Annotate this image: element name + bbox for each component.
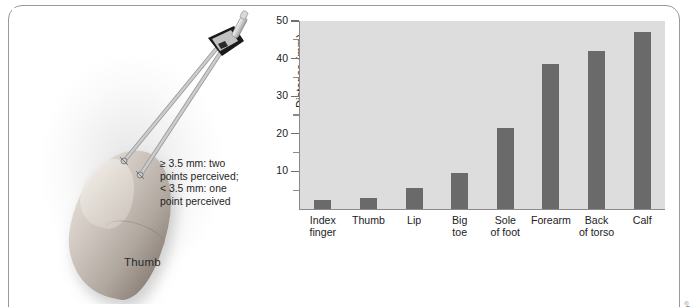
y-axis-line [299, 21, 300, 210]
bar [451, 173, 468, 209]
y-tick-major [291, 171, 299, 172]
y-tick-label: 40 [268, 52, 288, 64]
annotation-text: ≥ 3.5 mm: two points perceived; < 3.5 mm… [160, 158, 264, 208]
caliper-arm-left-icon [125, 48, 217, 160]
y-tick-major [291, 96, 299, 97]
copyright-credit: © 2016 Cengage Learning® [683, 301, 690, 307]
bar [360, 198, 377, 209]
y-tick-minor [293, 114, 299, 115]
bar [314, 200, 331, 209]
y-tick-major [291, 58, 299, 59]
y-tick-minor [293, 190, 299, 191]
x-axis-label: Calf [614, 214, 670, 226]
caliper-shaft-icon [231, 10, 248, 39]
y-tick-major [291, 133, 299, 134]
bar [497, 128, 514, 209]
plot-area [300, 21, 665, 209]
y-tick-minor [293, 77, 299, 78]
annotation-line-4: point perceived [160, 196, 264, 209]
bar-chart: Distance (mm) 1020304050 IndexfingerThum… [268, 5, 684, 305]
y-tick-label: 30 [268, 89, 288, 101]
thumb-label: Thumb [124, 256, 161, 268]
x-axis-label-line: of torso [569, 226, 625, 238]
bar [542, 64, 559, 209]
annotation-line-2: points perceived; [160, 171, 264, 184]
bar [634, 32, 651, 209]
annotation-line-3: < 3.5 mm: one [160, 183, 264, 196]
bar [406, 188, 423, 209]
x-axis-label-line: Calf [614, 214, 670, 226]
y-tick-label: 50 [268, 14, 288, 26]
y-tick-label: 10 [268, 164, 288, 176]
x-axis-label-line: of foot [477, 226, 533, 238]
y-tick-minor [293, 152, 299, 153]
annotation-line-1: ≥ 3.5 mm: two [160, 158, 264, 171]
y-tick-major [291, 20, 299, 21]
bar [588, 51, 605, 209]
illustration-panel: ≥ 3.5 mm: two points perceived; < 3.5 mm… [12, 8, 270, 304]
figure-container: ≥ 3.5 mm: two points perceived; < 3.5 mm… [0, 0, 692, 307]
x-axis-label-line: finger [295, 226, 351, 238]
caliper-arm-right-icon [141, 52, 221, 174]
x-axis-line [299, 209, 665, 210]
y-tick-minor [293, 39, 299, 40]
y-tick-label: 20 [268, 127, 288, 139]
